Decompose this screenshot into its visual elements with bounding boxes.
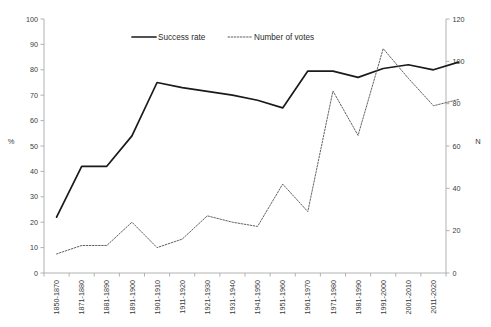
x-axis-category-label: 1941-1950 (253, 280, 262, 314)
right-axis-tick-label: 20 (453, 226, 461, 235)
right-axis-title: N (475, 137, 480, 146)
x-axis-category-label: 1971-1980 (329, 280, 338, 314)
line-chart: 0102030405060708090100020406080100120%N1… (0, 0, 491, 327)
x-axis-category-label: 1981-1990 (354, 280, 363, 314)
x-axis-category-label: 1871-1880 (77, 280, 86, 314)
left-axis-tick-label: 10 (30, 243, 38, 252)
x-axis-category-label: 1991-2000 (379, 280, 388, 314)
left-axis-tick-label: 0 (34, 269, 38, 278)
left-axis-tick-label: 20 (30, 218, 38, 227)
x-axis-category-label: 1850-1870 (52, 280, 61, 314)
x-axis-category-label: 1921-1930 (203, 280, 212, 314)
left-axis-tick-label: 30 (30, 192, 38, 201)
legend-label-number-of-votes: Number of votes (254, 33, 314, 42)
series-line-1 (57, 62, 459, 217)
x-axis-category-label: 1901-1910 (153, 280, 162, 314)
x-axis-category-label: 1911-1920 (178, 280, 187, 314)
x-axis-category-label: 1881-1890 (102, 280, 111, 314)
right-axis-tick-label: 0 (453, 269, 457, 278)
x-axis-category-label: 2011-2020 (429, 280, 438, 314)
x-axis-category-label: 2001-2010 (404, 280, 413, 314)
x-axis-category-label: 1951-1960 (278, 280, 287, 314)
legend-label-success-rate: Success rate (158, 33, 206, 42)
left-axis-tick-label: 90 (30, 40, 38, 49)
left-axis-tick-label: 50 (30, 142, 38, 151)
x-axis-category-label: 1891-1900 (128, 280, 137, 314)
series-line-2 (57, 49, 459, 254)
left-axis-tick-label: 40 (30, 167, 38, 176)
right-axis-tick-label: 60 (453, 142, 461, 151)
left-axis-tick-label: 70 (30, 91, 38, 100)
chart-container: 0102030405060708090100020406080100120%N1… (0, 0, 491, 327)
right-axis-tick-label: 40 (453, 184, 461, 193)
right-axis-tick-label: 120 (453, 15, 465, 24)
x-axis-category-label: 1931-1940 (228, 280, 237, 314)
left-axis-tick-label: 80 (30, 65, 38, 74)
x-axis-category-label: 1961-1970 (303, 280, 312, 314)
left-axis-title: % (8, 137, 15, 146)
left-axis-tick-label: 60 (30, 116, 38, 125)
left-axis-tick-label: 100 (26, 15, 38, 24)
